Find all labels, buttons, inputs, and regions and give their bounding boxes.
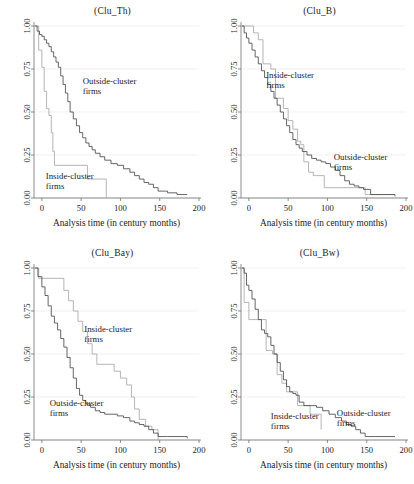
- svg-text:firms: firms: [50, 408, 69, 418]
- svg-text:0: 0: [40, 445, 44, 455]
- panel-title-2: (Clu_B): [207, 6, 414, 16]
- svg-text:200: 200: [400, 445, 413, 455]
- svg-text:Outside-cluster: Outside-cluster: [334, 152, 388, 162]
- svg-text:0.75: 0.75: [229, 61, 239, 76]
- svg-text:0.50: 0.50: [229, 104, 239, 119]
- panel-title-1: (Clu_Th): [0, 6, 207, 16]
- svg-text:0.25: 0.25: [229, 147, 239, 162]
- svg-text:200: 200: [193, 445, 206, 455]
- svg-text:0: 0: [247, 203, 251, 213]
- svg-text:0.75: 0.75: [22, 61, 32, 76]
- svg-text:150: 150: [360, 203, 373, 213]
- svg-text:100: 100: [114, 203, 127, 213]
- svg-text:firms: firms: [46, 181, 65, 191]
- panel-plot-2: 0.000.250.500.751.00050100150200Analysis…: [207, 0, 414, 242]
- svg-text:1.00: 1.00: [22, 260, 32, 275]
- svg-text:0.50: 0.50: [22, 104, 32, 119]
- svg-text:Analysis time (in century mont: Analysis time (in century months): [53, 460, 180, 471]
- svg-text:50: 50: [77, 203, 86, 213]
- svg-text:0: 0: [247, 445, 251, 455]
- svg-text:firms: firms: [337, 418, 356, 428]
- panel-title-4: (Clu_Bw): [207, 248, 414, 258]
- panel-clu-th: (Clu_Th) 0.000.250.500.751.0005010015020…: [0, 0, 207, 242]
- svg-text:50: 50: [284, 445, 293, 455]
- panel-title-3: (Clu_Bay): [0, 248, 207, 258]
- svg-text:firms: firms: [334, 162, 353, 172]
- svg-text:Analysis time (in century mont: Analysis time (in century months): [53, 218, 180, 229]
- svg-text:0.50: 0.50: [229, 346, 239, 361]
- svg-text:Inside-cluster: Inside-cluster: [84, 324, 132, 334]
- svg-text:Inside-cluster: Inside-cluster: [46, 171, 94, 181]
- svg-text:0.00: 0.00: [229, 190, 239, 205]
- svg-text:Inside-cluster: Inside-cluster: [266, 70, 314, 80]
- svg-text:Inside-cluster: Inside-cluster: [271, 411, 319, 421]
- svg-text:150: 150: [153, 445, 166, 455]
- svg-text:1.00: 1.00: [229, 260, 239, 275]
- svg-text:100: 100: [321, 203, 334, 213]
- svg-text:150: 150: [360, 445, 373, 455]
- panel-plot-3: 0.000.250.500.751.00050100150200Analysis…: [0, 242, 207, 484]
- panel-clu-b: (Clu_B) 0.000.250.500.751.00050100150200…: [207, 0, 414, 242]
- svg-text:firms: firms: [84, 334, 103, 344]
- svg-text:Analysis time (in century mont: Analysis time (in century months): [260, 460, 387, 471]
- svg-text:50: 50: [77, 445, 86, 455]
- svg-text:150: 150: [153, 203, 166, 213]
- panel-clu-bw: (Clu_Bw) 0.000.250.500.751.0005010015020…: [207, 242, 414, 484]
- svg-text:200: 200: [193, 203, 206, 213]
- svg-text:0.25: 0.25: [229, 389, 239, 404]
- panel-plot-1: 0.000.250.500.751.00050100150200Analysis…: [0, 0, 207, 242]
- svg-text:firms: firms: [83, 86, 102, 96]
- svg-text:0.75: 0.75: [229, 303, 239, 318]
- svg-text:firms: firms: [271, 421, 290, 431]
- svg-text:0.75: 0.75: [22, 303, 32, 318]
- svg-text:0.00: 0.00: [229, 432, 239, 447]
- figure-grid: (Clu_Th) 0.000.250.500.751.0005010015020…: [0, 0, 414, 484]
- svg-text:1.00: 1.00: [229, 18, 239, 33]
- svg-text:0.25: 0.25: [22, 147, 32, 162]
- panel-plot-4: 0.000.250.500.751.00050100150200Analysis…: [207, 242, 414, 484]
- svg-text:200: 200: [400, 203, 413, 213]
- svg-text:0.50: 0.50: [22, 346, 32, 361]
- svg-text:Outside-cluster: Outside-cluster: [83, 76, 137, 86]
- panel-clu-bay: (Clu_Bay) 0.000.250.500.751.000501001502…: [0, 242, 207, 484]
- svg-text:1.00: 1.00: [22, 18, 32, 33]
- svg-text:Outside-cluster: Outside-cluster: [50, 398, 104, 408]
- svg-text:Analysis time (in century mont: Analysis time (in century months): [260, 218, 387, 229]
- svg-text:0.25: 0.25: [22, 389, 32, 404]
- svg-text:100: 100: [114, 445, 127, 455]
- svg-text:firms: firms: [266, 80, 285, 90]
- svg-text:Outside-cluster: Outside-cluster: [337, 408, 391, 418]
- svg-text:0: 0: [40, 203, 44, 213]
- svg-text:100: 100: [321, 445, 334, 455]
- svg-text:0.00: 0.00: [22, 190, 32, 205]
- svg-text:0.00: 0.00: [22, 432, 32, 447]
- svg-text:50: 50: [284, 203, 293, 213]
